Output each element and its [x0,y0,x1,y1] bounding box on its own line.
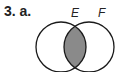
venn-diagram [0,0,127,72]
